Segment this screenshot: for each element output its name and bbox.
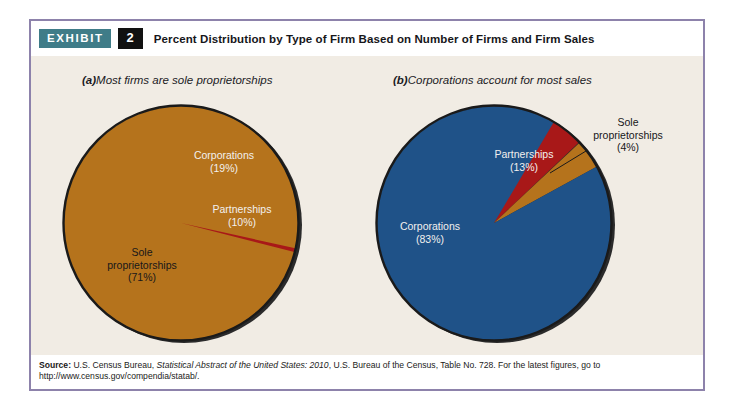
exhibit-title: Percent Distribution by Type of Firm Bas…	[154, 33, 595, 45]
panel-a-subtitle-text: Most firms are sole proprietorships	[96, 74, 272, 86]
pie-a-slice-sole-proprietorships	[59, 101, 304, 346]
panel-a-marker: (a)	[82, 74, 96, 86]
chart-panel: (a)Most firms are sole proprietorships (…	[31, 56, 703, 355]
panel-a-subtitle: (a)Most firms are sole proprietorships	[82, 74, 272, 86]
panel-b-subtitle-text: Corporations account for most sales	[408, 74, 592, 86]
panel-b-subtitle: (b)Corporations account for most sales	[393, 74, 592, 86]
panel-b-marker: (b)	[393, 74, 408, 86]
source-text-after: , U.S. Bureau of the Census, Table No. 7…	[329, 360, 601, 370]
pie-chart-a: Corporations (19%) Partnerships (10%) So…	[59, 101, 304, 346]
exhibit-badge: EXHIBIT	[39, 29, 111, 49]
source-url[interactable]: http://www.census.gov/compendia/statab/.	[39, 371, 200, 381]
exhibit-page: EXHIBIT 2 Percent Distribution by Type o…	[0, 0, 736, 411]
exhibit-footer: Source: U.S. Census Bureau, Statistical …	[31, 355, 703, 389]
pie-a-svg	[59, 101, 304, 346]
source-text-before: U.S. Census Bureau,	[71, 360, 157, 370]
pie-b-svg	[372, 101, 617, 346]
pie-chart-b: Partnerships (13%) Corporations (83%) So…	[372, 101, 617, 346]
pie-b-slice-corporations	[372, 101, 617, 346]
source-citation: Source: U.S. Census Bureau, Statistical …	[39, 360, 691, 383]
source-label: Source:	[39, 360, 71, 370]
exhibit-number-badge: 2	[118, 28, 143, 49]
exhibit-header: EXHIBIT 2 Percent Distribution by Type o…	[31, 21, 703, 56]
exhibit-frame: EXHIBIT 2 Percent Distribution by Type o…	[29, 19, 705, 391]
source-publication-title: Statistical Abstract of the United State…	[157, 360, 329, 370]
